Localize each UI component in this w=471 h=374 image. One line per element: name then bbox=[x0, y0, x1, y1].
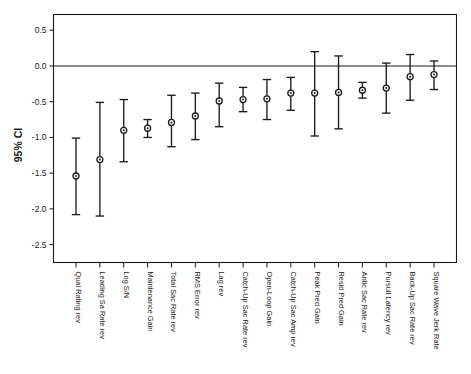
ci-error-bar bbox=[334, 56, 342, 129]
y-tick-label: -2.5 bbox=[32, 240, 47, 250]
data-point-center bbox=[147, 127, 149, 129]
ci-error-bar bbox=[120, 100, 128, 162]
y-axis-ticks: 0.50.0-0.5-1.0-1.5-2.0-2.5 bbox=[32, 25, 54, 249]
data-point-center bbox=[218, 100, 220, 102]
data-point-center bbox=[170, 121, 172, 123]
data-point-center bbox=[338, 91, 340, 93]
ci-error-bar bbox=[215, 83, 223, 127]
ci-error-bar bbox=[143, 120, 151, 138]
data-point-center bbox=[194, 115, 196, 117]
y-tick-label: 0.0 bbox=[35, 61, 47, 71]
data-point-center bbox=[123, 129, 125, 131]
x-category-label: Qual Rating rev bbox=[74, 272, 83, 324]
y-tick-label: -2.0 bbox=[32, 204, 47, 214]
data-point-center bbox=[75, 175, 77, 177]
ci-error-bar bbox=[96, 102, 104, 216]
plot-frame bbox=[54, 15, 457, 263]
x-category-label: Catch-Up Sac Amp rev bbox=[289, 272, 298, 347]
x-category-label: Total Sac Rate rev bbox=[169, 272, 178, 333]
data-point-center bbox=[385, 87, 387, 89]
x-axis-category-labels: Qual Rating revLeading Sa Rate revLog S/… bbox=[74, 272, 441, 350]
x-category-label: Leading Sa Rate rev bbox=[98, 272, 107, 340]
ci-error-bar bbox=[310, 52, 318, 136]
data-point-center bbox=[409, 76, 411, 78]
y-axis-title-text: 95% CI bbox=[12, 128, 24, 163]
x-axis-ticks bbox=[76, 263, 434, 268]
data-point-center bbox=[314, 92, 316, 94]
data-point-center bbox=[433, 74, 435, 76]
ci-error-bar bbox=[167, 95, 175, 146]
ci-error-bar bbox=[406, 55, 414, 101]
x-category-label: Catch-Up Sac Rate rev bbox=[241, 272, 250, 348]
data-point-center bbox=[290, 92, 292, 94]
data-point-center bbox=[361, 89, 363, 91]
x-category-label: Square Wave Jerk Rate bbox=[432, 272, 441, 350]
x-category-label: Resid Pred Gain bbox=[337, 272, 346, 326]
x-category-label: Log S/N bbox=[122, 272, 131, 299]
chart-figure: 0.50.0-0.5-1.0-1.5-2.0-2.5 95% CI Qual R… bbox=[0, 0, 471, 374]
ci-error-bar bbox=[382, 63, 390, 113]
y-tick-label: -1.0 bbox=[32, 132, 47, 142]
x-category-label: Lag rev bbox=[217, 272, 226, 297]
x-category-label: Back-Up Sac Rate rev bbox=[408, 272, 417, 345]
data-series-ci bbox=[72, 52, 438, 216]
y-axis-title: 95% CI bbox=[12, 128, 24, 163]
data-point-center bbox=[266, 98, 268, 100]
x-category-label: Maintenance Gain bbox=[146, 272, 155, 332]
ci-error-bar bbox=[358, 82, 366, 98]
y-tick-label: 0.5 bbox=[35, 25, 47, 35]
confidence-interval-chart: 0.50.0-0.5-1.0-1.5-2.0-2.5 95% CI Qual R… bbox=[0, 0, 471, 374]
data-point-center bbox=[99, 159, 101, 161]
ci-error-bar bbox=[430, 61, 438, 90]
y-tick-label: -0.5 bbox=[32, 97, 47, 107]
x-category-label: Antic Sac Rate rev bbox=[360, 272, 369, 334]
data-point-center bbox=[242, 99, 244, 101]
ci-error-bar bbox=[287, 77, 295, 110]
ci-error-bar bbox=[239, 87, 247, 111]
ci-error-bar bbox=[263, 80, 271, 120]
x-category-label: Open-Loop Gain bbox=[265, 272, 274, 327]
y-tick-label: -1.5 bbox=[32, 168, 47, 178]
x-category-label: Pursuit Latency rev bbox=[384, 272, 393, 336]
x-category-label: Peak Pred Gain bbox=[313, 272, 322, 324]
ci-error-bar bbox=[72, 138, 80, 214]
ci-error-bar bbox=[191, 93, 199, 139]
x-category-label: RMS Error rev bbox=[193, 272, 202, 320]
